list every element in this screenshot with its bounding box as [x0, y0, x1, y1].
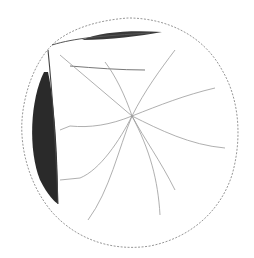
leaf-drawing — [0, 0, 254, 258]
top-fold-shadow — [82, 31, 162, 40]
inner-crease — [70, 66, 145, 70]
leaf-veins — [60, 50, 225, 220]
leaf-illustration — [0, 0, 254, 258]
left-fold-shadow — [32, 72, 58, 204]
